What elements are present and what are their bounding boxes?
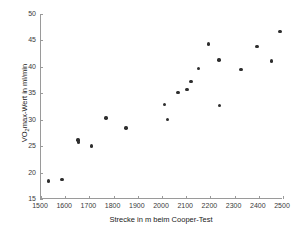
x-axis-tick — [235, 196, 236, 199]
y-axis-tick-label: 40 — [16, 63, 36, 71]
y-axis-tick-label: 20 — [16, 169, 36, 177]
y-axis-tick-label: 30 — [16, 116, 36, 124]
data-point — [278, 30, 281, 33]
x-axis-tick — [89, 196, 90, 199]
y-axis-tick — [40, 14, 43, 15]
y-axis-tick — [40, 199, 43, 200]
data-point — [90, 144, 93, 147]
data-point — [124, 126, 127, 129]
data-point — [185, 88, 188, 91]
x-axis-tick — [114, 196, 115, 199]
data-point — [217, 58, 220, 61]
y-axis-label-subscript: 2 — [24, 128, 30, 131]
y-axis-tick-label: 25 — [16, 142, 36, 150]
x-axis-tick — [162, 196, 163, 199]
x-axis-tick — [186, 196, 187, 199]
x-axis-tick — [65, 196, 66, 199]
y-axis-label: VO2max-Wert in ml/min — [20, 23, 30, 183]
x-axis-tick-label: 2500 — [267, 202, 297, 210]
y-axis-tick — [40, 146, 43, 147]
y-axis-label-pre: VO — [20, 131, 29, 142]
x-axis-label: Strecke in m beim Cooper-Test — [40, 215, 282, 225]
x-axis-tick — [259, 196, 260, 199]
data-point — [218, 104, 221, 107]
y-axis-tick — [40, 93, 43, 94]
y-axis-tick-label: 45 — [16, 36, 36, 44]
data-point — [207, 42, 210, 45]
y-axis-tick-label: 35 — [16, 89, 36, 97]
data-point — [163, 103, 166, 106]
data-point — [176, 91, 179, 94]
data-point — [104, 116, 107, 119]
data-point — [47, 179, 50, 182]
data-point — [166, 118, 169, 121]
y-axis-tick — [40, 40, 43, 41]
data-point — [270, 59, 273, 62]
plot-area — [40, 14, 282, 199]
y-axis-tick-label: 15 — [16, 195, 36, 203]
data-point — [189, 80, 192, 83]
y-axis-tick-label: 50 — [16, 10, 36, 18]
x-axis-tick — [283, 196, 284, 199]
data-point — [77, 140, 80, 143]
x-axis-tick — [210, 196, 211, 199]
data-point — [60, 178, 63, 181]
y-axis-tick — [40, 67, 43, 68]
data-point — [255, 45, 258, 48]
y-axis-tick — [40, 173, 43, 174]
y-axis-tick — [40, 120, 43, 121]
data-point — [197, 67, 200, 70]
x-axis-tick — [138, 196, 139, 199]
data-point — [239, 68, 242, 71]
scatter-plot-figure: Strecke in m beim Cooper-Test VO2max-Wer… — [0, 0, 297, 236]
